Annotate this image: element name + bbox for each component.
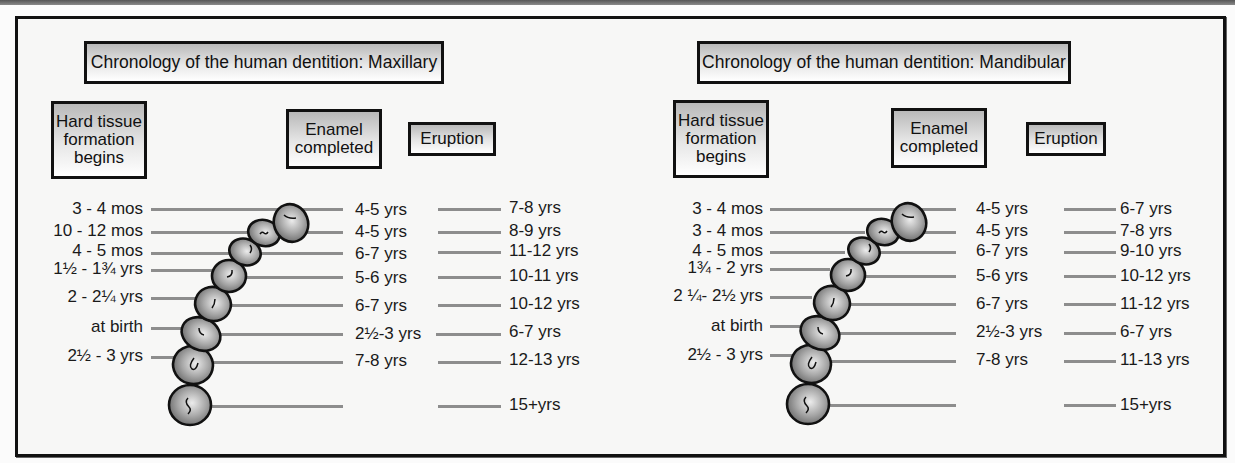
- mandibular-teeth-arch: [615, 0, 1235, 463]
- panel-maxillary: Chronology of the human dentition: Maxil…: [0, 0, 620, 463]
- tooth-icon: [169, 385, 211, 425]
- panel-mandibular: Chronology of the human dentition: Mandi…: [615, 0, 1235, 463]
- tooth-icon: [787, 384, 829, 424]
- maxillary-teeth-arch: [0, 0, 620, 463]
